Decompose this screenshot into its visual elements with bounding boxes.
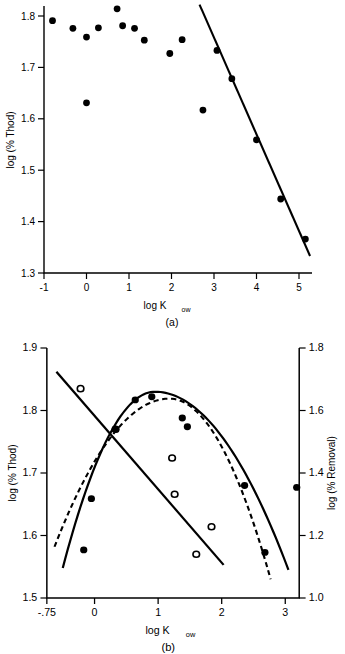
x-axis-title-sub: ow xyxy=(186,630,196,639)
data-point-open xyxy=(77,386,84,392)
data-point-open xyxy=(193,551,200,557)
data-point-filled xyxy=(119,22,126,29)
data-point-open xyxy=(208,524,215,530)
data-point-open xyxy=(169,455,176,461)
y-tick-label: 1.6 xyxy=(21,113,35,124)
x-tick-label: 0 xyxy=(84,282,90,293)
panel-a-data-points xyxy=(49,5,309,242)
y-tick-label-left: 1.7 xyxy=(22,468,37,479)
x-axis-title-main: log K xyxy=(144,300,167,311)
data-point-filled xyxy=(253,136,260,143)
x-tick-label: 1 xyxy=(126,282,132,293)
x-axis-title-main: log K xyxy=(145,625,169,636)
panel-b-regression-line xyxy=(56,372,223,565)
x-tick-label: -.75 xyxy=(38,607,57,618)
panel-b-x-axis-title: log K ow xyxy=(145,625,196,639)
panel-b-axes xyxy=(47,348,299,598)
x-tick-label: 1 xyxy=(155,607,161,618)
x-tick-label: 3 xyxy=(211,282,217,293)
panel-b-right-y-ticks xyxy=(299,348,305,598)
data-point-filled xyxy=(83,99,90,106)
x-axis-title-sub: ow xyxy=(182,306,192,313)
panel-b-left-y-ticks xyxy=(40,348,46,598)
data-point-filled xyxy=(228,75,235,82)
data-point-filled xyxy=(184,423,191,430)
y-tick-label-right: 1.8 xyxy=(309,343,324,354)
panel-a-x-ticks xyxy=(44,273,299,279)
data-point-filled xyxy=(302,236,309,243)
regression-line xyxy=(200,5,310,256)
panel-b-left-y-tick-labels: 1.5 1.6 1.7 1.8 1.9 xyxy=(22,343,37,604)
data-point-filled xyxy=(88,495,95,502)
panel-b-right-y-tick-labels: 1.0 1.2 1.4 1.6 1.8 xyxy=(309,343,324,604)
data-point-open xyxy=(171,491,178,497)
data-point-filled xyxy=(70,25,77,32)
y-tick-label-left: 1.6 xyxy=(22,530,37,541)
y-tick-label: 1.3 xyxy=(21,268,35,279)
y-tick-label: 1.8 xyxy=(21,11,35,22)
data-point-filled xyxy=(179,415,186,422)
panel-a-caption: (a) xyxy=(166,316,179,328)
data-point-filled xyxy=(214,47,221,54)
data-point-filled xyxy=(141,37,148,44)
x-tick-label: 2 xyxy=(169,282,175,293)
y-tick-label-left: 1.8 xyxy=(22,405,37,416)
data-point-filled xyxy=(293,484,300,491)
data-point-filled xyxy=(200,107,207,114)
panel-b-caption: (b) xyxy=(161,641,175,653)
panel-b-data-points xyxy=(77,386,300,558)
panel-a-container: 1.3 1.4 1.5 1.6 1.7 1.8 -1 0 1 2 3 4 5 xyxy=(0,0,345,330)
panel-a-axes xyxy=(44,6,312,273)
panel-a-x-axis-title: log K ow xyxy=(144,300,192,313)
x-tick-label: 4 xyxy=(254,282,260,293)
panel-a-regression-line xyxy=(200,5,310,256)
data-point-filled xyxy=(83,34,90,41)
y-tick-label-right: 1.0 xyxy=(309,593,324,604)
data-point-filled xyxy=(166,50,173,57)
data-point-filled xyxy=(114,5,121,12)
data-point-filled xyxy=(241,482,248,489)
chart-panel-a: 1.3 1.4 1.5 1.6 1.7 1.8 -1 0 1 2 3 4 5 xyxy=(0,0,345,330)
data-point-filled xyxy=(112,426,119,433)
y-tick-label-right: 1.2 xyxy=(309,530,324,541)
panel-b-right-y-axis-title: log (% Removal) xyxy=(326,436,337,510)
x-tick-label: 3 xyxy=(282,607,288,618)
data-point-filled xyxy=(261,549,268,556)
panel-a-y-ticks xyxy=(38,16,44,273)
panel-b-fit-curves xyxy=(55,392,289,580)
panel-a-y-tick-labels: 1.3 1.4 1.5 1.6 1.7 1.8 xyxy=(21,11,35,279)
x-tick-label: 5 xyxy=(296,282,302,293)
panel-b-container: 1.5 1.6 1.7 1.8 1.9 1.0 1.2 1.4 1.6 1.8 xyxy=(0,330,345,654)
data-point-filled xyxy=(179,36,186,43)
y-tick-label: 1.7 xyxy=(21,62,35,73)
data-point-filled xyxy=(148,393,155,400)
x-tick-label: 0 xyxy=(92,607,98,618)
y-tick-label-left: 1.9 xyxy=(22,343,37,354)
data-point-filled xyxy=(80,546,87,553)
x-tick-label: -1 xyxy=(40,282,49,293)
panel-a-x-tick-labels: -1 0 1 2 3 4 5 xyxy=(40,282,303,293)
y-tick-label-right: 1.4 xyxy=(309,468,324,479)
x-tick-label: 2 xyxy=(219,607,225,618)
y-tick-label: 1.5 xyxy=(21,165,35,176)
data-point-filled xyxy=(49,17,56,24)
y-tick-label-right: 1.6 xyxy=(309,405,324,416)
data-point-filled xyxy=(132,396,139,403)
descending-regression-line xyxy=(56,372,223,565)
panel-b-x-tick-labels: -.75 0 1 2 3 xyxy=(38,607,289,618)
y-tick-label-left: 1.5 xyxy=(22,593,37,604)
data-point-filled xyxy=(131,25,138,32)
y-tick-label: 1.4 xyxy=(21,216,35,227)
panel-b-left-y-axis-title: log (% Thod) xyxy=(7,445,18,502)
data-point-filled xyxy=(277,196,284,203)
data-point-filled xyxy=(95,24,102,31)
chart-panel-b: 1.5 1.6 1.7 1.8 1.9 1.0 1.2 1.4 1.6 1.8 xyxy=(0,330,345,654)
panel-a-y-axis-title: log (% Thod) xyxy=(5,111,16,168)
panel-b-x-ticks xyxy=(47,598,285,604)
